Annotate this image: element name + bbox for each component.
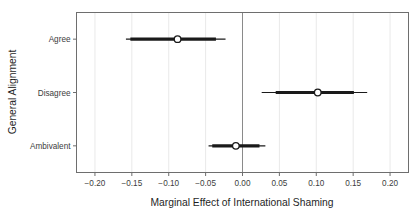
x-tick-label: 0.15: [345, 179, 361, 188]
x-tick-label: −0.05: [195, 179, 216, 188]
point-estimate-marker: [174, 36, 181, 43]
category-label: Agree: [49, 35, 71, 44]
coefficient-plot-figure: −0.20−0.15−0.10−0.050.000.050.100.150.20…: [0, 0, 420, 215]
y-axis-title: General Alignment: [7, 50, 18, 135]
x-tick-labels: −0.20−0.15−0.10−0.050.000.050.100.150.20: [85, 179, 399, 188]
x-tick-label: −0.15: [121, 179, 142, 188]
chart-canvas: −0.20−0.15−0.10−0.050.000.050.100.150.20…: [0, 0, 420, 215]
x-tick-label: 0.20: [382, 179, 398, 188]
category-label: Disagree: [38, 89, 71, 98]
x-tick-label: 0.10: [308, 179, 324, 188]
point-estimate-marker: [314, 89, 321, 96]
x-tick-label: −0.10: [158, 179, 179, 188]
x-tick-label: 0.00: [235, 179, 251, 188]
point-estimate-marker: [233, 143, 240, 150]
category-label: Ambivalent: [30, 142, 71, 151]
x-axis-title: Marginal Effect of International Shaming: [151, 197, 334, 208]
x-tick-label: 0.05: [271, 179, 287, 188]
x-tick-label: −0.20: [85, 179, 106, 188]
